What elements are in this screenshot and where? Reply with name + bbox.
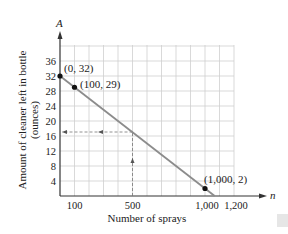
y-tick-labels: 4 8 12 16 20 24 28 32 36 xyxy=(46,56,57,187)
svg-text:36: 36 xyxy=(46,56,57,67)
x-axis-arrow-icon xyxy=(259,194,267,199)
dashed-guides xyxy=(62,132,133,196)
svg-text:8: 8 xyxy=(51,161,56,172)
point-label-0-32: (0, 32) xyxy=(64,62,94,75)
point-label-100-29: (100, 29) xyxy=(80,78,121,91)
corner-box xyxy=(277,214,288,227)
svg-text:16: 16 xyxy=(46,131,57,142)
svg-text:1,200: 1,200 xyxy=(224,200,248,211)
y-axis xyxy=(58,31,63,196)
svg-text:Amount of cleaner left in bott: Amount of cleaner left in bottle xyxy=(16,50,28,189)
x-axis-title: Number of sprays xyxy=(108,212,187,224)
svg-text:24: 24 xyxy=(46,101,57,112)
point-100-29 xyxy=(72,85,77,90)
svg-text:100: 100 xyxy=(67,200,83,211)
y-axis-var: A xyxy=(55,17,63,29)
svg-text:28: 28 xyxy=(46,86,57,97)
x-axis-var: n xyxy=(270,189,276,201)
up-arrow-icon xyxy=(131,158,135,163)
svg-text:(ounces): (ounces) xyxy=(28,101,41,139)
point-1000-2 xyxy=(202,186,207,191)
left-arrow-icon xyxy=(98,130,103,134)
y-axis-title: Amount of cleaner left in bottle (ounces… xyxy=(16,50,41,189)
x-axis xyxy=(60,194,267,199)
svg-text:4: 4 xyxy=(51,176,57,187)
point-0-32 xyxy=(57,73,62,78)
x-tick-labels: 100 500 1,000 1,200 xyxy=(67,200,248,211)
point-label-1000-2: (1,000, 2) xyxy=(204,173,247,186)
left-arrow-icon xyxy=(62,130,67,134)
svg-text:20: 20 xyxy=(46,116,57,127)
svg-text:1,000: 1,000 xyxy=(195,200,219,211)
chart: A n 4 8 12 16 20 24 28 32 36 100 500 1,0… xyxy=(0,0,288,234)
y-axis-arrow-icon xyxy=(58,31,63,39)
svg-text:500: 500 xyxy=(125,200,141,211)
svg-text:12: 12 xyxy=(46,146,57,157)
svg-text:32: 32 xyxy=(46,71,57,82)
